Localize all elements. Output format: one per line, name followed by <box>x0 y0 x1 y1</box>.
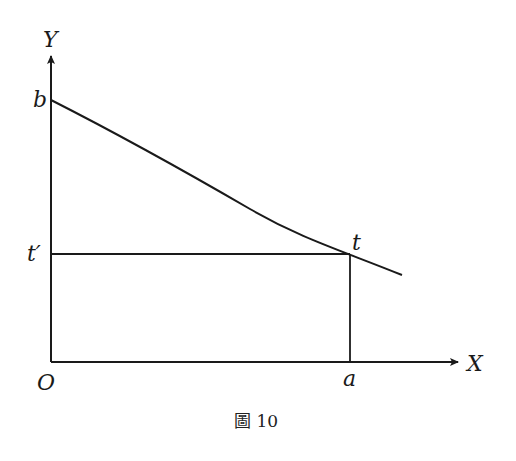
decreasing-curve <box>51 100 402 275</box>
origin-label: O <box>37 370 55 395</box>
x-axis-label: X <box>465 351 484 376</box>
t-label: t <box>352 230 361 255</box>
figure-caption: 圖 10 <box>234 411 278 431</box>
a-label: a <box>343 366 356 391</box>
b-label: b <box>33 87 47 112</box>
t-prime-label: t′ <box>27 241 41 266</box>
figure-canvas: Y X O b t′ t a 圖 10 <box>0 0 516 461</box>
y-axis-label: Y <box>43 27 60 52</box>
